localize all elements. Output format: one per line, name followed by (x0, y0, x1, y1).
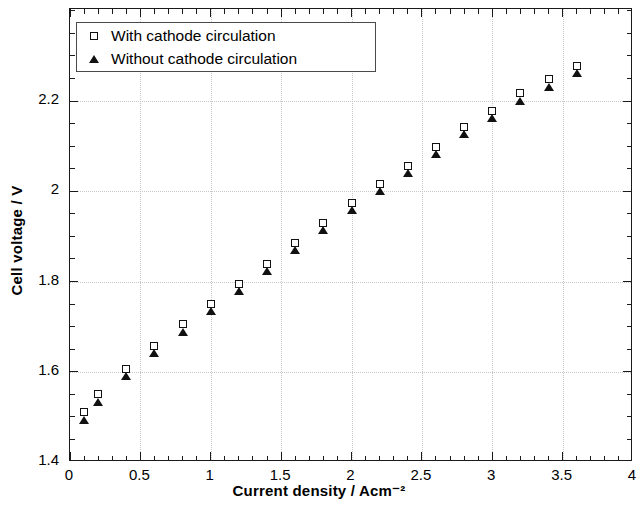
x-tick-major (281, 9, 282, 17)
data-point-with-cathode-circulation (573, 62, 581, 70)
y-tick-minor (70, 213, 75, 214)
x-tick-label: 0.5 (99, 466, 179, 483)
data-point-with-cathode-circulation (404, 162, 412, 170)
y-tick-minor (70, 304, 75, 305)
x-tick-minor (98, 9, 99, 14)
y-tick-minor (70, 123, 75, 124)
x-tick-minor (224, 456, 225, 461)
y-tick-minor (70, 258, 75, 259)
y-tick-minor (627, 123, 632, 124)
x-tick-minor (604, 456, 605, 461)
x-tick-minor (182, 456, 183, 461)
data-point-without-cathode-circulation (206, 307, 216, 315)
x-tick-minor (576, 9, 577, 14)
x-tick-minor (464, 9, 465, 14)
x-tick-major (70, 452, 71, 460)
y-tick-minor (70, 55, 75, 56)
legend-box: With cathode circulation Without cathode… (76, 22, 376, 72)
data-point-without-cathode-circulation (375, 187, 385, 195)
y-tick-major (623, 371, 631, 372)
x-tick-minor (590, 456, 591, 461)
data-point-without-cathode-circulation (234, 287, 244, 295)
x-tick-minor (154, 9, 155, 14)
x-tick-major (562, 452, 563, 460)
x-tick-minor (182, 9, 183, 14)
chart-figure: Cell voltage / V Current density / Acm⁻²… (0, 0, 638, 508)
x-tick-minor (238, 9, 239, 14)
x-tick-label: 1 (170, 466, 250, 483)
y-tick-minor (70, 168, 75, 169)
x-tick-minor (252, 9, 253, 14)
x-tick-minor (365, 456, 366, 461)
data-point-without-cathode-circulation (79, 416, 89, 424)
data-point-with-cathode-circulation (207, 300, 215, 308)
y-tick-minor (627, 168, 632, 169)
x-tick-minor (520, 456, 521, 461)
y-tick-minor (627, 439, 632, 440)
y-tick-minor (70, 33, 75, 34)
x-tick-label: 2.5 (381, 466, 461, 483)
y-tick-major (70, 371, 78, 372)
x-tick-minor (295, 9, 296, 14)
y-tick-minor (627, 326, 632, 327)
y-tick-label: 2 (0, 180, 59, 197)
y-tick-label: 2.2 (0, 90, 59, 107)
x-tick-minor (450, 456, 451, 461)
x-tick-major (140, 452, 141, 460)
y-tick-minor (70, 439, 75, 440)
x-tick-minor (252, 456, 253, 461)
x-tick-minor (196, 9, 197, 14)
data-point-without-cathode-circulation (403, 169, 413, 177)
x-tick-minor (618, 456, 619, 461)
data-point-with-cathode-circulation (150, 342, 158, 350)
data-point-with-cathode-circulation (179, 320, 187, 328)
y-tick-major (623, 101, 631, 102)
data-point-without-cathode-circulation (318, 226, 328, 234)
x-tick-minor (618, 9, 619, 14)
data-point-with-cathode-circulation (80, 408, 88, 416)
gridline-vertical (140, 9, 141, 460)
data-point-with-cathode-circulation (516, 89, 524, 97)
x-tick-major (210, 9, 211, 17)
x-tick-label: 1.5 (240, 466, 320, 483)
y-tick-minor (70, 78, 75, 79)
x-tick-minor (112, 456, 113, 461)
x-tick-minor (337, 456, 338, 461)
legend-entry-without-cathode-circulation: Without cathode circulation (77, 46, 375, 71)
data-point-with-cathode-circulation (488, 107, 496, 115)
x-tick-minor (309, 456, 310, 461)
y-tick-minor (70, 394, 75, 395)
x-tick-label: 3.5 (522, 466, 602, 483)
data-point-without-cathode-circulation (149, 349, 159, 357)
legend-label: Without cathode circulation (111, 50, 297, 68)
x-tick-minor (506, 456, 507, 461)
x-tick-label: 2 (311, 466, 391, 483)
data-point-with-cathode-circulation (545, 75, 553, 83)
x-tick-minor (435, 9, 436, 14)
data-point-with-cathode-circulation (348, 199, 356, 207)
x-axis-title: Current density / Acm⁻² (0, 482, 638, 500)
x-tick-major (562, 9, 563, 17)
data-point-with-cathode-circulation (432, 143, 440, 151)
y-tick-label: 1.8 (0, 271, 59, 288)
data-point-with-cathode-circulation (235, 280, 243, 288)
y-tick-minor (627, 146, 632, 147)
legend-label: With cathode circulation (111, 27, 276, 45)
x-tick-major (421, 9, 422, 17)
x-tick-major (70, 9, 71, 17)
data-point-without-cathode-circulation (262, 267, 272, 275)
y-tick-minor (627, 33, 632, 34)
y-tick-minor (627, 258, 632, 259)
x-tick-major (210, 452, 211, 460)
x-tick-minor (379, 9, 380, 14)
x-tick-minor (126, 9, 127, 14)
x-tick-minor (112, 9, 113, 14)
data-point-with-cathode-circulation (291, 239, 299, 247)
x-tick-minor (168, 456, 169, 461)
plot-area (69, 8, 632, 461)
x-tick-minor (84, 456, 85, 461)
data-point-with-cathode-circulation (263, 260, 271, 268)
y-tick-minor (627, 416, 632, 417)
data-point-without-cathode-circulation (572, 69, 582, 77)
x-tick-minor (309, 9, 310, 14)
